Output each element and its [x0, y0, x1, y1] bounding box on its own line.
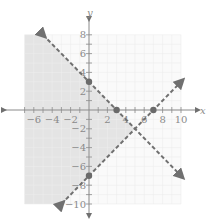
- plot-area: −6−4−22468108642−2−4−6−8−10xy: [4, 7, 206, 216]
- y-tick-label: −8: [71, 180, 86, 191]
- y-tick-label: −2: [71, 123, 86, 134]
- y-tick-label: −6: [71, 161, 86, 172]
- x-tick-label: 2: [104, 114, 110, 125]
- x-tick-label: 8: [159, 114, 165, 125]
- intercept-point: [150, 107, 156, 113]
- y-tick-label: 2: [80, 86, 86, 97]
- x-tick-label: −6: [26, 114, 41, 125]
- coordinate-plane-chart: −6−4−22468108642−2−4−6−8−10xy: [0, 0, 207, 220]
- y-tick-label: −10: [65, 199, 86, 210]
- y-tick-label: 6: [80, 48, 86, 59]
- x-tick-label: 10: [175, 114, 188, 125]
- intercept-point: [113, 107, 119, 113]
- y-tick-label: 8: [80, 29, 86, 40]
- x-tick-label: −4: [45, 114, 60, 125]
- y-axis-label: y: [86, 7, 93, 18]
- x-axis-label: x: [200, 105, 206, 116]
- intercept-point: [86, 173, 92, 179]
- y-tick-label: −4: [71, 142, 86, 153]
- intercept-point: [86, 79, 92, 85]
- chart-svg: −6−4−22468108642−2−4−6−8−10xy: [0, 0, 207, 220]
